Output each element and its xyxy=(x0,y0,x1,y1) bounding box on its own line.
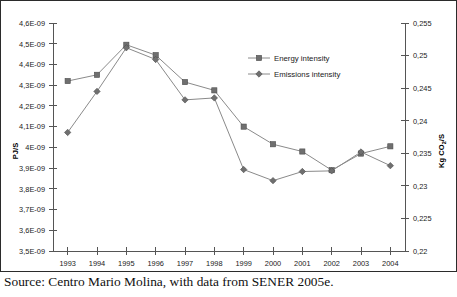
right-axis-tick-label: 0,245 xyxy=(413,84,432,93)
left-axis-tick-label: 3,6E-09 xyxy=(19,226,45,235)
right-axis-tick-label: 0,22 xyxy=(413,247,427,256)
left-axis-tick-label: 4E-09 xyxy=(25,143,45,152)
x-axis-tick-label: 1996 xyxy=(147,259,163,268)
left-axis-tick-label: 4,5E-09 xyxy=(19,40,45,49)
left-axis-tick-label: 4,1E-09 xyxy=(19,122,45,131)
data-point-emissions xyxy=(94,88,100,94)
left-axis-tick-label: 4,6E-09 xyxy=(19,19,45,28)
x-axis-tick-label: 1999 xyxy=(235,259,251,268)
right-axis-tick-label: 0,24 xyxy=(413,117,427,126)
x-axis-tick-label: 2002 xyxy=(323,259,339,268)
right-axis-title: Kg CO2/S xyxy=(437,134,447,168)
left-axis-tick-label: 3,8E-09 xyxy=(19,185,45,194)
data-point-energy xyxy=(94,72,99,77)
right-axis-tick-label: 0,255 xyxy=(413,19,432,28)
x-axis-tick-label: 1998 xyxy=(206,259,222,268)
chart-figure: 3,5E-093,6E-093,7E-093,8E-093,9E-094E-09… xyxy=(0,0,457,272)
legend-marker-energy xyxy=(256,55,261,60)
x-axis-tick-label: 1997 xyxy=(177,259,193,268)
legend-marker-emissions xyxy=(256,71,262,77)
data-point-emissions xyxy=(299,168,305,174)
x-axis-tick-label: 2000 xyxy=(265,259,281,268)
data-point-energy xyxy=(388,144,393,149)
data-point-energy xyxy=(65,78,70,83)
source-caption: Source: Centro Mario Molina, with data f… xyxy=(4,274,454,290)
data-point-energy xyxy=(270,142,275,147)
right-axis-title-tail: /S xyxy=(437,134,446,141)
data-point-emissions xyxy=(240,166,246,172)
series-line-emissions xyxy=(68,48,391,181)
data-point-emissions xyxy=(387,162,393,168)
legend-label-energy: Energy intensity xyxy=(274,54,330,63)
right-axis-tick-label: 0,23 xyxy=(413,182,427,191)
x-axis-tick-label: 1994 xyxy=(89,259,105,268)
x-axis-tick-label: 1993 xyxy=(59,259,75,268)
right-axis-tick-label: 0,25 xyxy=(413,51,427,60)
data-point-energy xyxy=(241,124,246,129)
line-chart: 3,5E-093,6E-093,7E-093,8E-093,9E-094E-09… xyxy=(1,1,456,271)
left-axis-tick-label: 3,9E-09 xyxy=(19,164,45,173)
x-axis-tick-label: 2004 xyxy=(382,259,398,268)
data-point-emissions xyxy=(211,95,217,101)
data-point-emissions xyxy=(270,177,276,183)
right-axis-tick-label: 0,235 xyxy=(413,149,432,158)
left-axis-tick-label: 4,4E-09 xyxy=(19,60,45,69)
left-axis-tick-label: 4,2E-09 xyxy=(19,102,45,111)
x-axis-tick-label: 2003 xyxy=(353,259,369,268)
left-axis-tick-label: 3,5E-09 xyxy=(19,247,45,256)
data-point-emissions xyxy=(64,129,70,135)
x-axis-tick-label: 1995 xyxy=(118,259,134,268)
left-axis-title: PJ/S xyxy=(11,143,20,159)
x-axis-tick-label: 2001 xyxy=(294,259,310,268)
data-point-energy xyxy=(212,88,217,93)
left-axis-tick-label: 4,3E-09 xyxy=(19,81,45,90)
legend-label-emissions: Emissions intensity xyxy=(274,70,340,79)
data-point-energy xyxy=(300,149,305,154)
left-axis-tick-label: 3,7E-09 xyxy=(19,205,45,214)
right-axis-tick-label: 0,225 xyxy=(413,214,432,223)
data-point-energy xyxy=(182,79,187,84)
